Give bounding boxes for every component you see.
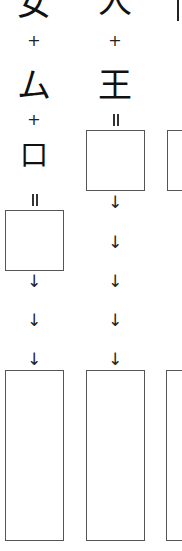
right-writing-box[interactable] <box>166 370 182 541</box>
left-arrow-1: ↓ <box>19 273 49 290</box>
middle-plus: + <box>100 33 130 49</box>
right-component-stroke <box>177 0 179 21</box>
left-equals-sign <box>19 194 49 208</box>
left-component-3-glyph: 口 <box>9 139 59 173</box>
left-component-1-glyph: 女 <box>9 0 59 20</box>
left-plus-1: + <box>19 33 49 49</box>
left-plus-2: + <box>19 112 49 128</box>
left-component-2-glyph: ム <box>9 68 59 102</box>
left-writing-box[interactable] <box>5 370 64 541</box>
middle-arrow-3: ↓ <box>100 273 130 290</box>
middle-arrow-4: ↓ <box>100 312 130 329</box>
right-answer-box[interactable] <box>167 130 182 191</box>
middle-answer-box[interactable] <box>86 130 145 191</box>
left-arrow-3: ↓ <box>19 351 49 368</box>
left-answer-box[interactable] <box>5 210 64 271</box>
middle-component-1-glyph: 人 <box>90 0 140 18</box>
middle-component-2-glyph: 王 <box>90 68 140 102</box>
middle-writing-box[interactable] <box>86 370 145 541</box>
left-arrow-2: ↓ <box>19 312 49 329</box>
middle-arrow-1: ↓ <box>100 194 130 211</box>
middle-arrow-2: ↓ <box>100 234 130 251</box>
middle-equals-sign <box>100 114 130 128</box>
middle-arrow-5: ↓ <box>100 351 130 368</box>
